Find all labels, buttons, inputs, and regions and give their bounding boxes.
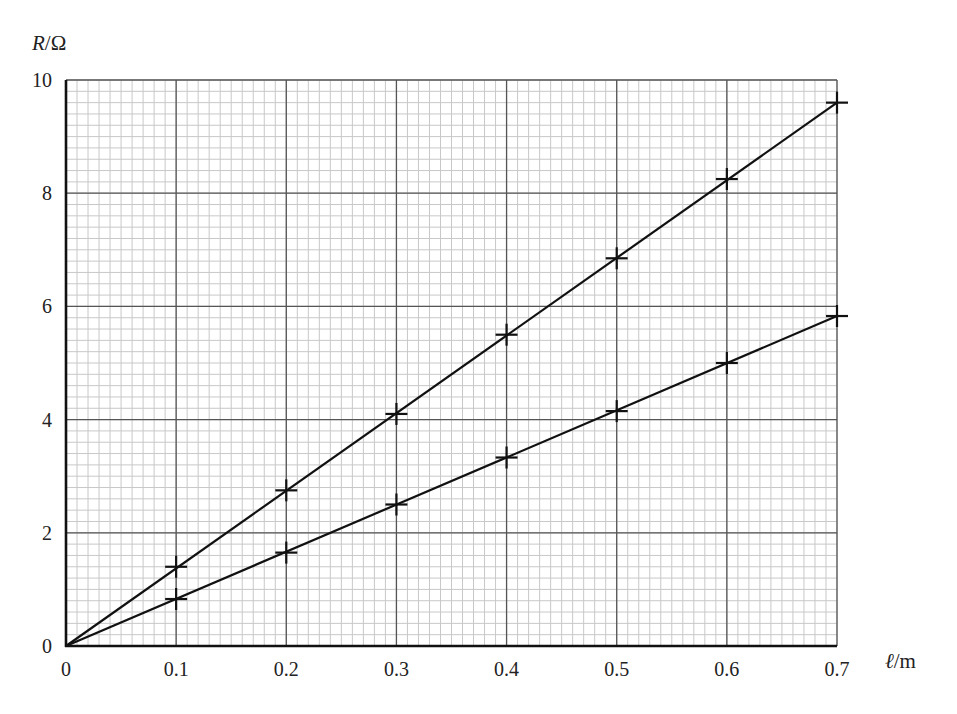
y-tick-labels: 0246810 <box>32 69 52 657</box>
plus-marker-icon <box>385 403 407 425</box>
y-tick-label: 0 <box>42 635 52 657</box>
y-axis-var: R <box>31 31 45 55</box>
y-tick-label: 2 <box>42 522 52 544</box>
x-axis-title: ℓ/m <box>885 649 916 673</box>
x-tick-label: 0.7 <box>825 658 850 680</box>
plus-marker-icon <box>496 324 518 346</box>
y-tick-label: 8 <box>42 182 52 204</box>
x-tick-labels: 00.10.20.30.40.50.60.7 <box>61 658 850 680</box>
plus-marker-icon <box>716 352 738 374</box>
x-axis-var: ℓ <box>885 649 894 673</box>
x-tick-label: 0.3 <box>384 658 409 680</box>
y-tick-label: 6 <box>42 295 52 317</box>
plus-marker-icon <box>275 479 297 501</box>
x-tick-label: 0.4 <box>494 658 519 680</box>
plus-marker-icon <box>385 494 407 516</box>
y-tick-label: 10 <box>32 69 52 91</box>
plus-marker-icon <box>275 542 297 564</box>
x-tick-label: 0.6 <box>714 658 739 680</box>
x-tick-label: 0.5 <box>604 658 629 680</box>
y-axis-title: R/Ω <box>31 31 66 55</box>
x-tick-label: 0.2 <box>274 658 299 680</box>
x-axis-unit: /m <box>894 649 916 673</box>
chart: 00.10.20.30.40.50.60.7 0246810 R/Ω ℓ/m <box>0 0 957 714</box>
y-axis-unit: /Ω <box>45 31 66 55</box>
x-tick-label: 0.1 <box>164 658 189 680</box>
plus-marker-icon <box>165 588 187 610</box>
plus-marker-icon <box>826 92 848 114</box>
y-tick-label: 4 <box>42 409 52 431</box>
plus-marker-icon <box>606 400 628 422</box>
plus-marker-icon <box>826 305 848 327</box>
plus-marker-icon <box>606 247 628 269</box>
x-tick-label: 0 <box>61 658 71 680</box>
